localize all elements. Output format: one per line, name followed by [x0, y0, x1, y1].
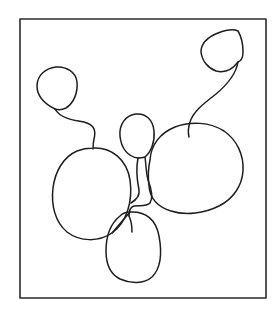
line-drawing-canvas [0, 0, 278, 316]
